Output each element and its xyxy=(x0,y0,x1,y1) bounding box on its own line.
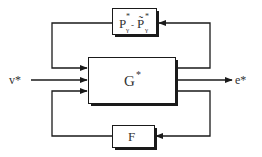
block-p-sub-1: γ xyxy=(125,26,129,34)
block-p-label-2: P̃ xyxy=(137,16,144,31)
block-p-sup-2: * xyxy=(145,12,149,21)
block-g-sup: * xyxy=(136,69,141,80)
block-f-label: F xyxy=(128,129,135,144)
output-signal-label: e* xyxy=(235,73,246,87)
block-g-label: G xyxy=(124,73,135,89)
block-p-sep: - xyxy=(131,20,134,30)
block-g: G * xyxy=(89,58,179,107)
block-diagram: P * γ - P̃ * γ G * F v* e* xyxy=(0,0,262,157)
block-p-sub-2: γ xyxy=(144,26,148,34)
block-f: F xyxy=(113,126,158,151)
block-p-gamma: P * γ - P̃ * γ xyxy=(113,9,160,38)
input-signal-label: v* xyxy=(9,73,21,87)
block-p-sup-1: * xyxy=(126,12,130,21)
